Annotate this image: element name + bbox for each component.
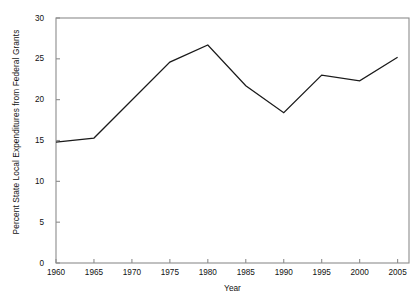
x-tick-label: 1975: [150, 268, 190, 278]
x-tick-label: 1995: [302, 268, 342, 278]
x-tick-label: 1965: [74, 268, 114, 278]
x-tick-label: 1970: [112, 268, 152, 278]
y-axis-title: Percent State Local Expenditures from Fe…: [9, 0, 23, 264]
x-tick-label: 1980: [188, 268, 228, 278]
x-tick-label: 1985: [226, 268, 266, 278]
x-tick-label: 2005: [378, 268, 418, 278]
y-tick-label: 15: [22, 136, 44, 145]
y-axis-tick-labels: 051015202530: [22, 0, 44, 304]
y-tick-label: 20: [22, 95, 44, 104]
line-chart: 051015202530 196019651970197519801985199…: [0, 0, 419, 304]
y-tick-label: 30: [22, 14, 44, 23]
y-tick-label: 25: [22, 54, 44, 63]
x-tick-label: 2000: [340, 268, 380, 278]
plot-canvas: [0, 0, 419, 304]
y-axis-ticks: [56, 18, 60, 263]
x-tick-label: 1960: [36, 268, 76, 278]
x-axis-title: Year: [56, 283, 409, 294]
x-axis-ticks: [56, 259, 398, 263]
x-tick-label: 1990: [264, 268, 304, 278]
plot-frame: [56, 18, 409, 263]
data-series-line: [56, 45, 398, 142]
y-tick-label: 0: [22, 259, 44, 268]
y-tick-label: 5: [22, 218, 44, 227]
y-tick-label: 10: [22, 177, 44, 186]
x-axis-tick-labels: 1960196519701975198019851990199520002005: [0, 268, 419, 282]
